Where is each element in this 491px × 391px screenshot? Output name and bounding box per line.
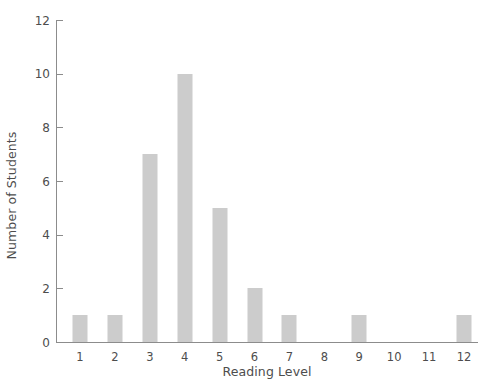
x-axis-label: Reading Level: [55, 364, 479, 379]
bar: [73, 315, 88, 342]
x-axis-tick-label: 2: [111, 350, 118, 364]
x-axis-tick-label: 5: [216, 350, 223, 364]
x-axis-tick-label: 10: [387, 350, 402, 364]
x-axis-tick-label: 1: [76, 350, 83, 364]
x-axis-tick-label: 12: [457, 350, 472, 364]
bar-chart: Number of Students 024681012 12345678910…: [0, 0, 491, 391]
y-axis-tick: 2: [57, 288, 63, 289]
y-axis-tick-label: 12: [35, 14, 50, 28]
bar: [282, 315, 297, 342]
y-axis-tick: 8: [57, 127, 63, 128]
x-axis-tick-label: 8: [321, 350, 328, 364]
y-axis-tick-label: 0: [42, 336, 50, 350]
y-axis-tick: 12: [57, 20, 63, 21]
bar: [352, 315, 367, 342]
bar: [142, 154, 157, 342]
x-axis-line: [56, 342, 478, 343]
y-axis-tick-label: 2: [42, 282, 50, 296]
y-axis-tick: 4: [57, 235, 63, 236]
x-axis-tick-label: 3: [146, 350, 153, 364]
x-axis-tick-label: 7: [286, 350, 293, 364]
bar: [177, 74, 192, 342]
bar: [247, 288, 262, 342]
plot-area: 024681012 123456789101112: [56, 20, 478, 343]
x-axis-tick-label: 4: [181, 350, 188, 364]
y-axis-label: Number of Students: [0, 0, 22, 391]
x-axis-tick-label: 6: [251, 350, 258, 364]
y-axis-tick: 10: [57, 74, 63, 75]
y-axis-tick: 6: [57, 181, 63, 182]
x-axis-tick-label: 9: [356, 350, 363, 364]
bar: [457, 315, 472, 342]
y-axis-tick: 0: [57, 342, 63, 343]
y-axis-tick-label: 4: [42, 228, 50, 242]
y-axis-tick-label: 6: [42, 175, 50, 189]
bar: [107, 315, 122, 342]
y-axis-tick-label: 10: [35, 67, 50, 81]
y-axis-tick-label: 8: [42, 121, 50, 135]
bar: [212, 208, 227, 342]
x-axis-tick-label: 11: [422, 350, 437, 364]
